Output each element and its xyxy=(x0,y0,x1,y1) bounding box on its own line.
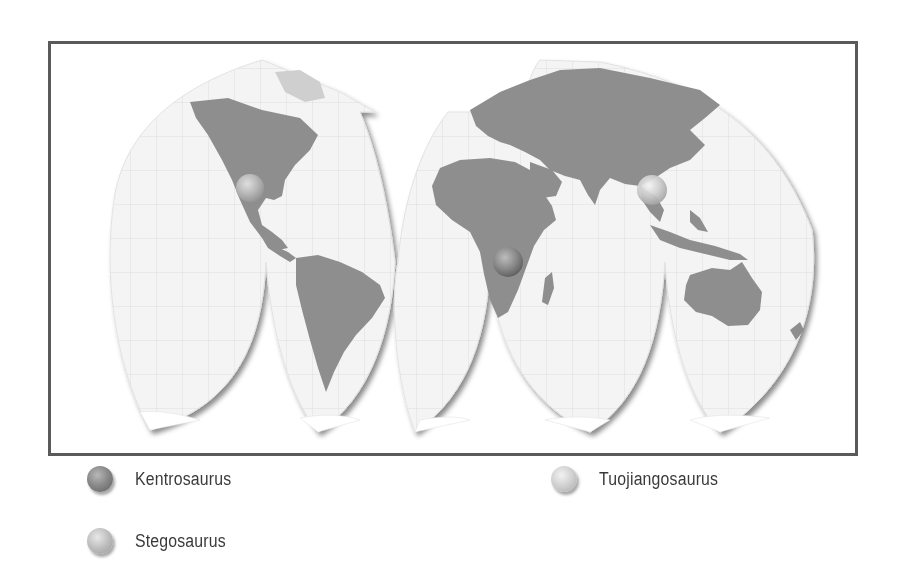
legend-item-stegosaurus: Stegosaurus xyxy=(87,528,238,554)
legend-item-tuojiangosaurus: Tuojiangosaurus xyxy=(551,466,734,492)
marker-stegosaurus[interactable] xyxy=(236,174,264,202)
antarctica xyxy=(140,411,770,432)
stegosaurus-marker-icon xyxy=(87,528,113,554)
legend-label: Tuojiangosaurus xyxy=(599,469,718,490)
legend-label: Stegosaurus xyxy=(135,531,226,552)
kentrosaurus-marker-icon xyxy=(87,466,113,492)
marker-kentrosaurus[interactable] xyxy=(493,247,523,277)
legend-item-kentrosaurus: Kentrosaurus xyxy=(87,466,244,492)
legend-label: Kentrosaurus xyxy=(135,469,231,490)
tuojiangosaurus-marker-icon xyxy=(551,466,577,492)
marker-tuojiangosaurus[interactable] xyxy=(637,175,667,205)
